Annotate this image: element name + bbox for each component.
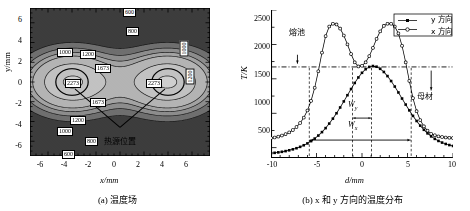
axis-tick-y: 2000 [242,42,270,51]
axis-tick-y: 2500 [242,14,270,23]
axis-tick-x: -10 [262,160,282,169]
axis-tick-x: 5 [398,160,418,169]
axis-tick-y: 0 [12,78,28,87]
width-x-label: Wx [348,120,357,131]
axis-tick-x: -2 [80,160,96,169]
axis-tick-x: 4 [154,160,170,169]
melt-pool-annotation: 熔池 [289,26,305,37]
panel-caption-a: (a) 温度场 [0,193,235,206]
axis-tick-y: -2 [9,99,28,108]
panel-caption-b: (b) x 和 y 方向的温度分布 [235,193,470,206]
axis-tick-y: -6 [9,141,28,150]
base-metal-annotation: 母材 [417,90,433,101]
axis-tick-x: 10 [442,160,462,169]
axis-label-y: y/mm [2,62,12,72]
axis-tick-y: 2 [12,57,28,66]
contour-label: 1200 [80,50,96,59]
axis-tick-y: 500 [242,126,270,135]
axis-tick-y: -4 [9,120,28,129]
contour-label: 1000 [57,48,73,57]
contour-label: 800 [85,137,98,146]
axis-tick-x: 6 [178,160,194,169]
heat-source-annotation: 热源位置 [104,135,136,146]
contour-label: 1200 [70,116,86,125]
contour-label: 600 [62,150,75,159]
panel-temperature-distribution: 2500 2000 1500 1000 500 -10 -5 0 5 10 d/… [235,0,470,211]
contour-label: 2273 [65,79,81,88]
figure-container: 6 4 2 0 -2 -4 -6 -6 -4 -2 0 2 4 6 x/mm y… [0,0,470,211]
contour-label: 1673 [95,64,111,73]
axis-label-x: d/mm [345,175,364,185]
contour-label: 1200 [186,69,195,85]
contour-label: 800 [126,27,139,36]
axis-tick-x: 0 [352,160,372,169]
contour-label: 600 [123,8,136,17]
contour-label: 1000 [57,127,73,136]
axis-tick-x: 0 [106,160,122,169]
panel-temperature-field: 6 4 2 0 -2 -4 -6 -6 -4 -2 0 2 4 6 x/mm y… [0,0,235,211]
axis-tick-y: 6 [12,15,28,24]
legend-item-y-direction: y 方向 [431,13,452,24]
legend-item-x-direction: x 方向 [431,25,452,36]
axis-tick-x: -6 [32,160,48,169]
axis-label-x: x/mm [100,175,118,185]
contour-label: 1673 [90,98,106,107]
axis-tick-y: 1000 [242,98,270,107]
axis-tick-x: -4 [56,160,72,169]
axis-tick-x: 2 [130,160,146,169]
contour-label: 2273 [146,79,162,88]
axis-tick-x: -5 [307,160,327,169]
axis-tick-y: 4 [12,36,28,45]
width-y-label: Wy [348,100,357,111]
axis-label-y: T/K [239,66,249,80]
contour-label: 1000 [180,41,189,57]
